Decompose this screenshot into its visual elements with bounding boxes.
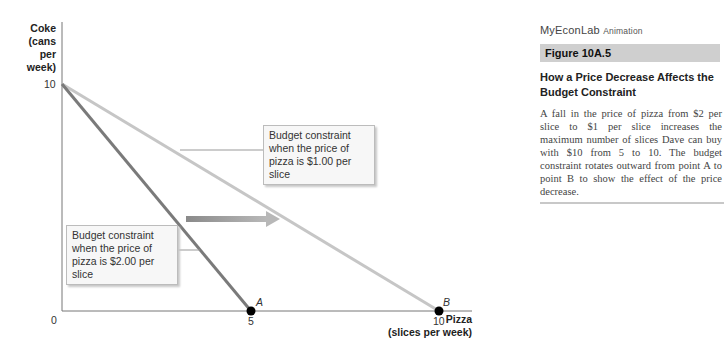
x-tick-5: 5 (248, 315, 254, 327)
budget-constraint-chart: Coke (cans per week) 10 0 5 10 A (0, 0, 480, 353)
figure-label: Figure 10A.5 (540, 44, 720, 62)
shift-arrow-icon (186, 211, 280, 227)
plot-area (0, 0, 480, 353)
point-b-label: B (443, 296, 450, 308)
annotation-2-dollar: Budget constraint when the price of pizz… (66, 225, 178, 285)
brand-name: MyEconLab (540, 24, 600, 36)
x-tick-0: 0 (51, 314, 57, 326)
figure-sidebar: MyEconLab Animation Figure 10A.5 How a P… (540, 24, 726, 204)
point-a-label: A (256, 296, 263, 308)
x-label-line: Pizza (380, 313, 472, 326)
x-label-line: (slices per week) (380, 326, 472, 339)
divider (540, 202, 724, 204)
brand-sub: Animation (603, 26, 643, 36)
brand: MyEconLab Animation (540, 24, 726, 36)
annotation-1-dollar: Budget constraint when the price of pizz… (263, 125, 375, 185)
x-axis-label: Pizza (slices per week) (380, 313, 472, 339)
figure-title: How a Price Decrease Affects the Budget … (540, 70, 726, 100)
y-tick-10: 10 (44, 78, 56, 90)
figure-caption: A fall in the price of pizza from $2 per… (540, 107, 722, 198)
